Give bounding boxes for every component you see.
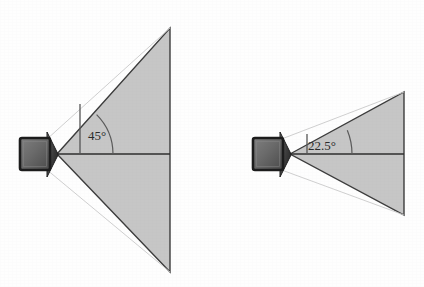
- narrow-angle-label: 22.5°: [308, 138, 336, 153]
- camera-body-wide: [20, 138, 50, 170]
- camera-body-narrow: [253, 138, 283, 170]
- narrow-angle-diagram: 22.5°: [253, 92, 404, 215]
- figure-root: 45° 22.5°: [0, 0, 424, 287]
- camera-icon-wide: [20, 132, 58, 177]
- wide-angle-label: 45°: [88, 128, 106, 143]
- diagram-canvas: 45° 22.5°: [0, 0, 424, 287]
- wide-view-cone: [57, 28, 170, 272]
- camera-icon-narrow: [253, 132, 291, 177]
- wide-angle-diagram: 45°: [20, 28, 170, 272]
